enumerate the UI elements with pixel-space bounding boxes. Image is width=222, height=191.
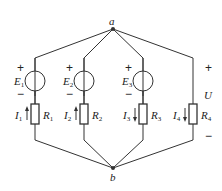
node-a-label: a (109, 16, 115, 27)
resistor-r3 (139, 104, 147, 124)
resistor-r4 (189, 104, 197, 124)
resistor-r2 (80, 104, 88, 124)
u-label: U (204, 90, 212, 101)
r4-label: R4 (201, 110, 211, 123)
i3-label: I3 (123, 110, 130, 123)
wire-branch-1-top (35, 29, 113, 96)
r2-label: R2 (92, 110, 102, 123)
node-a-dot (111, 27, 115, 31)
wire-branch-4-bottom (113, 124, 193, 168)
node-b-label: b (110, 172, 116, 183)
u-plus: + (205, 62, 212, 74)
e1-plus: + (17, 62, 24, 74)
r1-label: R1 (43, 110, 53, 123)
i2-label: I2 (64, 110, 71, 123)
circuit-diagram (0, 0, 222, 191)
node-b-dot (111, 166, 115, 170)
wire-branch-3-bottom (113, 124, 143, 168)
e3-minus: − (125, 88, 132, 100)
wire-branch-2-bottom (84, 124, 113, 168)
i4-label: I4 (173, 110, 180, 123)
wire-branch-1-bottom (35, 124, 113, 168)
i1-label: I1 (15, 110, 22, 123)
resistor-r1 (31, 104, 39, 124)
e2-plus: + (66, 62, 73, 74)
u-minus: − (205, 130, 212, 142)
e2-minus: − (66, 88, 73, 100)
e1-minus: − (17, 88, 24, 100)
r3-label: R3 (151, 110, 161, 123)
e3-plus: + (125, 62, 132, 74)
